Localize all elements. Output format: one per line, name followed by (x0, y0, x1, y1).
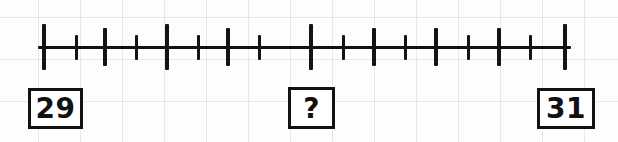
tick-mark-12 (434, 28, 438, 66)
tick-mark-15 (529, 35, 532, 60)
value-box-unknown[interactable]: ? (288, 87, 335, 129)
value-box-left: 29 (28, 88, 83, 129)
number-line-axis (38, 46, 571, 49)
tick-mark-4 (165, 24, 169, 70)
value-box-right: 31 (537, 88, 595, 129)
tick-mark-11 (404, 35, 407, 60)
tick-mark-1 (75, 35, 78, 60)
tick-mark-8 (309, 24, 313, 70)
tick-mark-9 (342, 35, 345, 60)
tick-mark-10 (372, 28, 376, 66)
tick-mark-13 (467, 35, 470, 60)
tick-mark-14 (497, 28, 501, 66)
tick-mark-5 (197, 35, 200, 60)
tick-mark-7 (258, 35, 261, 60)
tick-mark-6 (226, 28, 230, 66)
number-line-worksheet: 29 ? 31 (0, 0, 618, 142)
tick-mark-3 (135, 35, 138, 60)
tick-mark-2 (103, 28, 107, 66)
tick-mark-0 (42, 24, 46, 70)
tick-mark-16 (563, 24, 567, 70)
